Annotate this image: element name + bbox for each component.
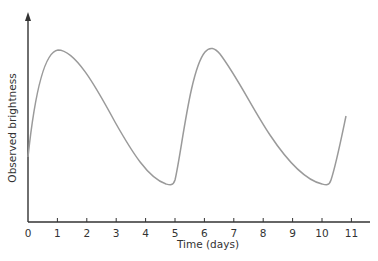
x-tick-label: 2 [83,227,90,239]
x-tick-label: 1 [54,227,61,239]
x-tick-label: 9 [289,227,296,239]
x-tick-label: 4 [142,227,149,239]
x-tick-label: 11 [345,227,358,239]
x-tick-label: 10 [315,227,328,239]
y-axis-title: Observed brightness [6,73,18,182]
y-axis-arrow-icon [25,12,31,21]
x-tick-label: 3 [113,227,120,239]
x-tick-label: 0 [25,227,32,239]
brightness-curve [28,48,346,184]
x-axis-title: Time (days) [176,238,239,250]
x-tick-label: 8 [260,227,267,239]
x-axis-ticks: 01234567891011 [25,218,358,239]
light-curve-chart: 01234567891011 Time (days) Observed brig… [0,0,378,261]
